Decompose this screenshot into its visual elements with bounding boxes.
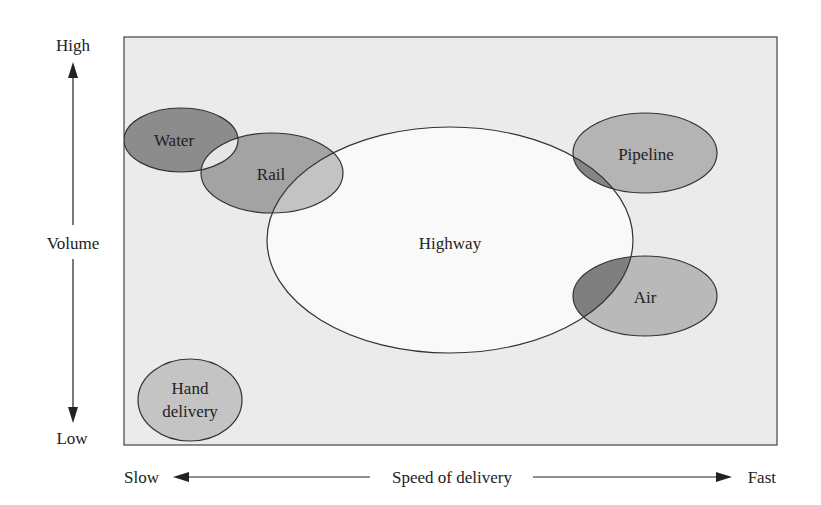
x-axis-fast-label: Fast	[748, 468, 777, 487]
x-axis-slow-label: Slow	[124, 468, 160, 487]
y-axis-high-label: High	[56, 36, 91, 55]
water-label: Water	[154, 131, 194, 150]
hand-delivery-label-line2: delivery	[162, 402, 218, 421]
pipeline-label: Pipeline	[618, 145, 674, 164]
highway-label: Highway	[419, 234, 482, 253]
arrow-down-icon	[68, 407, 78, 423]
y-axis-low-label: Low	[56, 429, 88, 448]
arrow-right-icon	[716, 472, 732, 482]
air-label: Air	[634, 288, 657, 307]
transport-modes-diagram: Water Rail Highway Pipeline Air Hand del…	[0, 0, 821, 505]
rail-label: Rail	[257, 165, 286, 184]
y-axis-title: Volume	[47, 234, 100, 253]
hand-delivery-label-line1: Hand	[172, 379, 209, 398]
arrow-up-icon	[68, 62, 78, 78]
x-axis-title: Speed of delivery	[392, 468, 512, 487]
